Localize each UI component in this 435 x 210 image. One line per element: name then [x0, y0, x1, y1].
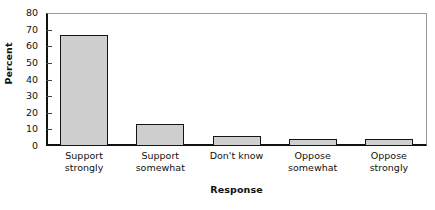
x-category-label-line: strongly [46, 162, 122, 174]
y-tick-mark [46, 30, 52, 31]
x-category-label-line: Oppose [275, 150, 351, 162]
bar [213, 136, 261, 146]
x-axis-title: Response [46, 184, 427, 195]
y-tick-mark [46, 129, 52, 130]
x-category-label-line: Oppose [351, 150, 427, 162]
x-category-label: Supportsomewhat [122, 150, 198, 174]
bars-layer [0, 0, 435, 160]
x-category-label-line: Support [122, 150, 198, 162]
bar [136, 124, 184, 146]
bar-chart: Percent 01020304050607080 Supportstrongl… [0, 0, 435, 210]
x-category-label-line: somewhat [275, 162, 351, 174]
x-category-label: Don't know [198, 150, 274, 162]
bar [289, 139, 337, 146]
bar [365, 139, 413, 146]
x-category-label-line: strongly [351, 162, 427, 174]
x-category-label-line: Don't know [198, 150, 274, 162]
y-tick-mark [46, 113, 52, 114]
bar [60, 35, 108, 146]
x-category-label: Supportstrongly [46, 150, 122, 174]
y-tick-mark [46, 96, 52, 97]
y-tick-mark [46, 80, 52, 81]
y-tick-mark [46, 46, 52, 47]
y-tick-mark [46, 63, 52, 64]
x-category-label-line: somewhat [122, 162, 198, 174]
x-category-label: Opposesomewhat [275, 150, 351, 174]
x-category-label: Opposestrongly [351, 150, 427, 174]
x-axis-category-labels: SupportstronglySupportsomewhatDon't know… [46, 150, 427, 182]
x-category-label-line: Support [46, 150, 122, 162]
